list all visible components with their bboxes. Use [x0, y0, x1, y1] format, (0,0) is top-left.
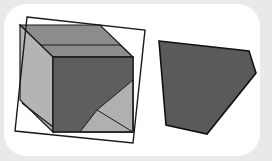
cube-diagram	[0, 0, 272, 161]
cross-section-polygon	[159, 41, 256, 134]
